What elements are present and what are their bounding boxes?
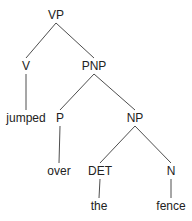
tree-labels: VPVPNPjumpedPNPoverDETNthefence (5, 8, 186, 213)
edge-det-the (99, 179, 100, 198)
node-p: P (56, 111, 64, 125)
edge-np-det (100, 126, 135, 163)
edge-pnp-np (94, 74, 135, 110)
edge-np-n (135, 126, 171, 163)
node-vp: VP (48, 8, 64, 22)
syntax-tree-diagram: VPVPNPjumpedPNPoverDETNthefence (0, 0, 192, 221)
edge-vp-v (26, 23, 56, 58)
node-over: over (47, 164, 70, 178)
node-n: N (167, 164, 176, 178)
edge-vp-pnp (56, 23, 94, 58)
node-fence: fence (156, 199, 186, 213)
node-pnp: PNP (82, 59, 107, 73)
node-the: the (91, 199, 108, 213)
node-jumped: jumped (5, 111, 45, 125)
node-np: NP (127, 111, 144, 125)
edge-pnp-p (60, 74, 94, 110)
node-v: V (22, 59, 30, 73)
node-det: DET (88, 164, 113, 178)
edge-p-over (59, 126, 60, 163)
